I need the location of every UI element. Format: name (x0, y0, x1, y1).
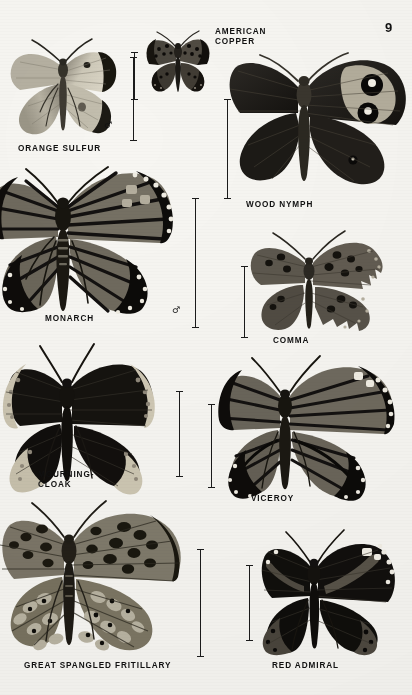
caption-monarch: MONARCH (45, 314, 94, 324)
caption-comma: COMMA (273, 336, 309, 346)
scale-bar-stem (227, 99, 228, 199)
scale-bar-stem (200, 549, 201, 657)
scale-bar-stem (249, 565, 250, 641)
scale-bar-stem (179, 391, 180, 477)
scale-bar-monarch (192, 198, 199, 328)
scale-bar-great-spangled-fritillary (197, 549, 204, 657)
scale-bar-mourning-cloak (176, 391, 183, 477)
scale-bar-stem (211, 404, 212, 488)
specimen-monarch (0, 155, 192, 325)
specimen-american-copper (143, 27, 213, 97)
specimen-comma (245, 229, 397, 341)
field-guide-page: 9 (0, 0, 412, 695)
scale-bar-cap-bottom (224, 198, 231, 199)
specimen-viceroy (222, 352, 412, 496)
specimen-orange-sulfur (6, 22, 120, 148)
scale-bar-wood-nymph (224, 99, 231, 199)
scale-bar-comma (241, 266, 248, 338)
caption-red-admiral: RED ADMIRAL (272, 661, 339, 671)
scale-bar-cap-bottom (246, 640, 253, 641)
specimen-great-spangled-fritillary (0, 497, 198, 657)
specimen-red-admiral (258, 528, 408, 656)
caption-wood-nymph: WOOD NYMPH (246, 200, 313, 210)
scale-bar-stem (134, 52, 135, 100)
caption-orange-sulfur: ORANGE SULFUR (18, 144, 101, 154)
scale-bar-stem (244, 266, 245, 338)
specimen-mourning-cloak (6, 342, 178, 490)
scale-bar-cap-bottom (192, 327, 199, 328)
scale-bar-cap-bottom (208, 487, 215, 488)
caption-viceroy: VICEROY (251, 494, 294, 504)
scale-bar-cap-bottom (241, 337, 248, 338)
sex-symbol-male-orange-sulfur: ♂ (104, 121, 112, 130)
sex-symbol-male-monarch: ♂ (172, 306, 180, 315)
scale-bar-stem (195, 198, 196, 328)
scale-bar-cap-bottom (131, 99, 138, 100)
caption-mourning-cloak: MOURNING- CLOAK (38, 470, 94, 490)
scale-bar-american-copper (131, 52, 138, 100)
scale-bar-cap-bottom (130, 140, 137, 141)
scale-bar-viceroy (208, 404, 215, 488)
caption-great-spangled-fritillary: GREAT SPANGLED FRITILLARY (24, 661, 171, 671)
scale-bar-cap-bottom (176, 476, 183, 477)
scale-bar-red-admiral (246, 565, 253, 641)
specimen-wood-nymph (228, 33, 412, 201)
scale-bar-cap-bottom (197, 656, 204, 657)
